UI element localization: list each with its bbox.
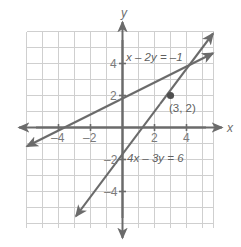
y-axis-label: y <box>121 7 127 19</box>
equation-label-1: x – 2y = –1 <box>126 52 183 64</box>
x-tick-label-neg4: –4 <box>51 132 64 144</box>
x-axis-label: x <box>227 122 233 134</box>
graph-canvas <box>0 0 241 247</box>
x-tick-label-2: 2 <box>151 132 158 144</box>
y-tick-label-neg4: –4 <box>104 186 117 198</box>
intersection-point-label: (3, 2) <box>169 103 196 115</box>
intersection-dot <box>167 92 174 99</box>
axes <box>19 22 222 238</box>
coordinate-plane-figure: y x –4 –2 2 4 4 2 –2 –4 x – 2y = –1 4x –… <box>0 0 241 247</box>
x-tick-label-4: 4 <box>183 132 190 144</box>
y-tick-label-neg2: –2 <box>104 154 117 166</box>
grid-lines <box>27 32 214 228</box>
x-tick-label-neg2: –2 <box>83 132 96 144</box>
y-tick-label-4: 4 <box>110 58 117 70</box>
equation-label-2: 4x – 3y = 6 <box>127 153 184 165</box>
y-tick-label-2: 2 <box>110 90 117 102</box>
